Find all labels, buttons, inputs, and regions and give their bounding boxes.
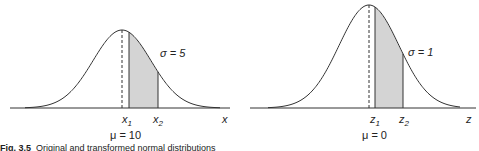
- left-normal-chart: σ = 5 x1 x2 x μ = 10: [10, 30, 230, 141]
- right-mu-label: μ = 0: [362, 129, 387, 141]
- right-axis-label: z: [465, 113, 472, 125]
- figure-caption: Fig. 3.5 Original and transformed normal…: [0, 143, 216, 151]
- figure-caption-text: Original and transformed normal distribu…: [36, 143, 216, 151]
- right-normal-chart: σ = 1 z1 z2 z μ = 0: [250, 5, 476, 141]
- right-shaded-area: [375, 7, 403, 108]
- left-x1-label: x1: [121, 113, 132, 128]
- left-axis-label: x: [221, 113, 228, 125]
- right-z1-label: z1: [369, 113, 380, 128]
- left-sigma-label: σ = 5: [160, 47, 186, 59]
- right-sigma-label: σ = 1: [408, 46, 433, 58]
- figure-caption-label: Fig. 3.5: [0, 143, 31, 151]
- right-z2-label: z2: [398, 113, 410, 128]
- left-x2-label: x2: [152, 113, 164, 128]
- left-mu-label: μ = 10: [110, 129, 141, 141]
- left-shaded-area: [129, 32, 158, 108]
- figure-canvas: σ = 5 x1 x2 x μ = 10 σ = 1 z1 z2 z μ = 0: [0, 0, 479, 151]
